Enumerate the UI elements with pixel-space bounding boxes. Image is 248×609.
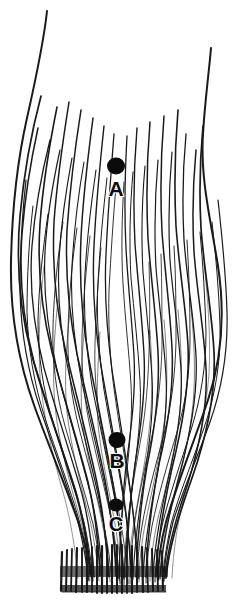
marker-dot-c [109, 499, 124, 512]
marker-C: C [109, 499, 124, 536]
marker-label-a: A [108, 177, 123, 200]
marker-dot-a [107, 158, 125, 175]
marker-A: A [107, 158, 125, 201]
marker-B: B [109, 432, 126, 472]
figure-root: A B C [0, 0, 248, 609]
marker-label-b: B [109, 449, 124, 472]
marker-dot-b [109, 432, 126, 448]
marker-label-c: C [109, 513, 123, 535]
anatomical-figure-illustration: A B C [0, 0, 248, 609]
